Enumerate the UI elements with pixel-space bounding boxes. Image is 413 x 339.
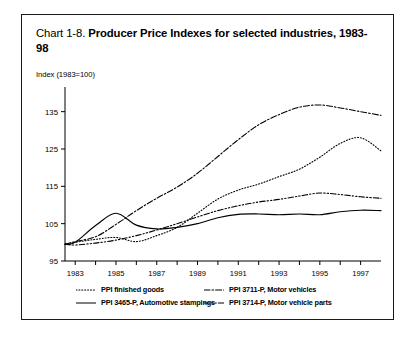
y-tick-label: 125 [45,145,59,154]
legend-swatch-icon [76,299,96,307]
series-line-0 [65,138,381,245]
chart-legend: PPI finished goodsPPI 3711-P, Motor vehi… [38,283,382,309]
legend-item-motor_vehicles: PPI 3711-P, Motor vehicles [194,285,380,294]
y-tick-label: 95 [49,257,58,266]
legend-row: PPI finished goodsPPI 3711-P, Motor vehi… [38,283,382,296]
axes [65,87,381,261]
y-tick-label: 105 [45,220,59,229]
y-tick-label: 135 [45,108,59,117]
plot-area: 95105115125135 1983198519871989199119931… [22,15,395,321]
legend-row: PPI 3465-P, Automotive stampingsPPI 3714… [38,296,382,309]
chart-svg: 95105115125135 1983198519871989199119931… [22,15,395,321]
legend-label: PPI 3711-P, Motor vehicles [229,285,316,294]
x-tick-label: 1987 [148,269,165,278]
x-tick-label: 1983 [67,269,84,278]
chart-card: Chart 1-8. Producer Price Indexes for se… [21,14,394,320]
legend-item-automotive_stampings: PPI 3465-P, Automotive stampings [38,298,194,307]
y-tick-label: 115 [46,182,59,191]
legend-swatch-icon [204,286,224,294]
x-tick-label: 1997 [352,269,369,278]
legend-label: PPI 3714-P, Motor vehicle parts [229,298,332,307]
x-tick-label: 1989 [189,269,206,278]
legend-swatch-icon [76,286,96,294]
x-tick-label: 1993 [271,269,288,278]
x-tick-label: 1995 [311,269,328,278]
x-tick-label: 1985 [108,269,125,278]
legend-swatch-icon [204,299,224,307]
series-line-3 [65,193,381,245]
legend-item-motor_vehicle_parts: PPI 3714-P, Motor vehicle parts [194,298,380,307]
series-line-2 [65,105,381,244]
x-axis-ticks: 19831985198719891991199319951997 [67,261,369,278]
x-tick-label: 1991 [230,269,247,278]
legend-label: PPI finished goods [101,285,164,294]
legend-item-finished_goods: PPI finished goods [38,285,194,294]
y-axis-ticks: 95105115125135 [45,108,65,266]
data-series [65,105,381,245]
